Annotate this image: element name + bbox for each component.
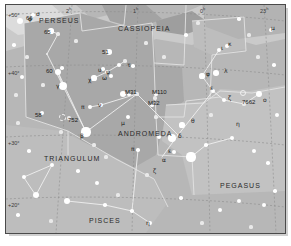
flamsteed-label: 60 bbox=[46, 68, 53, 74]
constellation-label: PERSEUS bbox=[39, 17, 79, 24]
greek-star-label: ω bbox=[102, 75, 107, 81]
flamsteed-label: 58 bbox=[35, 112, 42, 118]
greek-star-label: η bbox=[236, 121, 240, 127]
sky-map-frame: PERSEUSCASSIOPEIAANDROMEDATRIANGULUMPISC… bbox=[5, 4, 286, 234]
constellation-label: PISCES bbox=[89, 217, 121, 224]
greek-star-label: ε bbox=[210, 85, 213, 91]
greek-star-label: ι bbox=[221, 45, 223, 51]
dso-label: 7662 bbox=[242, 99, 255, 105]
dec-tick-label: +30° bbox=[8, 141, 20, 147]
greek-star-label: ζ bbox=[228, 95, 231, 101]
labels-layer: PERSEUSCASSIOPEIAANDROMEDATRIANGULUMPISC… bbox=[6, 5, 285, 233]
dso-label: M110 bbox=[152, 89, 167, 95]
greek-star-label: φ bbox=[206, 71, 210, 77]
greek-star-label: ο bbox=[263, 97, 267, 103]
greek-star-label: β bbox=[80, 133, 84, 139]
greek-star-label: τ bbox=[127, 62, 131, 68]
greek-star-label: λ bbox=[224, 68, 228, 74]
greek-star-label: μ bbox=[121, 120, 125, 126]
dso-label: 752 bbox=[68, 117, 78, 123]
greek-star-label: μ bbox=[271, 25, 275, 31]
greek-star-label: α bbox=[162, 157, 166, 163]
constellation-label: PEGASUS bbox=[220, 182, 261, 189]
greek-star-label: δ bbox=[178, 133, 182, 139]
greek-star-label: π bbox=[131, 146, 135, 152]
dec-tick-label: +40° bbox=[8, 71, 20, 77]
greek-star-label: ν bbox=[98, 102, 101, 108]
ra-tick-label: 0h bbox=[200, 7, 205, 14]
greek-star-label: θ bbox=[191, 118, 195, 124]
greek-star-label: φ bbox=[28, 16, 32, 22]
dec-tick-label: +50° bbox=[8, 13, 20, 19]
greek-star-label: η bbox=[146, 220, 150, 226]
greek-star-label: υ bbox=[98, 67, 101, 73]
dso-label: M31 bbox=[125, 89, 137, 95]
greek-star-label: χ bbox=[88, 77, 91, 83]
greek-star-label: π bbox=[81, 104, 85, 110]
dec-tick-label: +20° bbox=[8, 203, 20, 209]
constellation-label: ANDROMEDA bbox=[118, 130, 173, 137]
constellation-label: CASSIOPEIA bbox=[118, 25, 170, 32]
greek-star-label: σ bbox=[36, 11, 40, 17]
ra-tick-label: 1h bbox=[133, 7, 138, 14]
greek-star-label: ζ bbox=[153, 168, 156, 174]
ra-tick-label: 23h bbox=[260, 7, 268, 14]
greek-star-label: γ bbox=[56, 83, 60, 89]
greek-star-label: κ bbox=[228, 41, 232, 47]
flamsteed-label: 65 bbox=[44, 29, 51, 35]
greek-star-label: ε bbox=[168, 148, 171, 154]
constellation-label: TRIANGULUM bbox=[44, 155, 100, 162]
flamsteed-label: 51 bbox=[102, 49, 109, 55]
ra-tick-label: 2h bbox=[66, 7, 71, 14]
star-chart: PERSEUSCASSIOPEIAANDROMEDATRIANGULUMPISC… bbox=[0, 0, 291, 246]
dso-label: M32 bbox=[148, 100, 160, 106]
